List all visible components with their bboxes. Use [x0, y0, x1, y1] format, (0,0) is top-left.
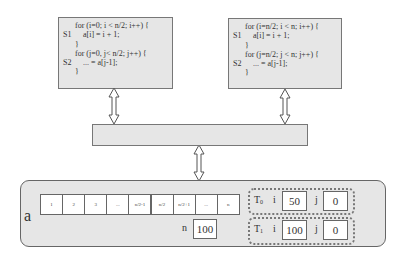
thread0-j-label: j: [315, 194, 318, 205]
code-text: }: [245, 41, 249, 50]
code-text: }: [245, 68, 249, 77]
statement-label: S1: [63, 30, 71, 39]
code-line: for (j=n/2; j < n; j++) {: [233, 50, 337, 59]
code-line: }: [63, 40, 168, 49]
double-arrow-icon: [108, 88, 120, 124]
array-name-label: a: [24, 207, 31, 225]
code-text: for (j=n/2; j < n; j++) {: [245, 50, 319, 59]
statement-label: S2: [63, 58, 71, 67]
code-line: S2... = a[j-1];: [233, 59, 337, 68]
code-line: }: [63, 67, 168, 76]
code-line: }: [233, 68, 337, 77]
array-cell: n/2-1: [128, 194, 151, 215]
thread1-i-value: 100: [282, 220, 307, 240]
n-value-box: 100: [193, 219, 217, 239]
thread1-j-label: j: [315, 223, 318, 234]
code-text: ... = a[j-1];: [83, 58, 118, 67]
n-label: n: [182, 222, 187, 233]
code-line: S1a[i] = i + 1;: [233, 31, 337, 40]
code-text: for (j=0, j< n/2; j++) {: [75, 49, 147, 58]
array-cell: 1: [40, 194, 63, 215]
code-line: S1a[i] = i + 1;: [63, 30, 168, 39]
code-text: for (i=n/2; i < n; i++) {: [245, 22, 319, 31]
code-text: }: [75, 40, 79, 49]
code-line: for (i=n/2; i < n; i++) {: [233, 22, 337, 31]
double-arrow-icon: [193, 145, 205, 181]
thread0-label: T0: [254, 194, 263, 205]
statement-label: S2: [233, 59, 241, 68]
thread0-j-value: 0: [323, 191, 348, 211]
thread0-i-label: i: [273, 194, 276, 205]
double-arrow-icon: [279, 89, 291, 124]
array-cell: ...: [106, 194, 129, 215]
statement-label: S1: [233, 31, 241, 40]
code-text: a[i] = i + 1;: [253, 31, 290, 40]
array-cell: 3: [84, 194, 107, 215]
code-text: a[i] = i + 1;: [83, 30, 120, 39]
code-text: ... = a[j-1];: [253, 59, 288, 68]
code-line: for (j=0, j< n/2; j++) {: [63, 49, 168, 58]
interconnect-bar: [92, 124, 308, 146]
thread0-code-box: for (i=0; i < n/2; i++) {S1a[i] = i + 1;…: [58, 17, 173, 89]
array-cell: n: [217, 194, 240, 215]
code-text: for (i=0; i < n/2; i++) {: [75, 21, 149, 30]
thread0-i-value: 50: [282, 191, 307, 211]
code-line: for (i=0; i < n/2; i++) {: [63, 21, 168, 30]
array-cell: n/2+1: [173, 194, 196, 215]
array-cell: ...: [195, 194, 218, 215]
thread1-j-value: 0: [323, 220, 348, 240]
code-text: }: [75, 67, 79, 76]
code-line: S2... = a[j-1];: [63, 58, 168, 67]
thread1-code-box: for (i=n/2; i < n; i++) {S1a[i] = i + 1;…: [228, 18, 342, 89]
thread1-label: T1: [254, 223, 263, 234]
thread1-i-label: i: [273, 223, 276, 234]
array-cell: n/2: [151, 194, 174, 215]
code-line: }: [233, 41, 337, 50]
array-cell: 2: [62, 194, 85, 215]
